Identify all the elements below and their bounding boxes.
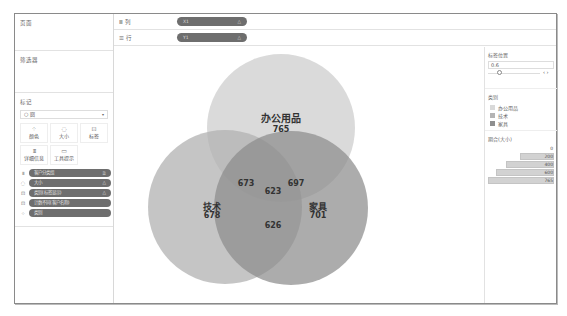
chevron-down-icon: ▾ [102, 111, 104, 118]
color-legend: 类别 办公用品 技术 家具 [485, 89, 557, 131]
size-row: 400 [488, 161, 554, 168]
label-position-slider[interactable] [488, 73, 540, 74]
size-row: 765 [488, 177, 554, 184]
size-value: 200 [544, 154, 553, 159]
columns-text: 列 [125, 19, 131, 25]
venn-svg [116, 47, 483, 303]
set-icon: ≧ [102, 169, 106, 177]
swatch [490, 121, 495, 126]
size-legend-title: 期合(大小) [488, 135, 512, 142]
size-legend: 期合(大小) 0 200 400 600 765 [485, 131, 557, 201]
columns-label: Ⅲ 列 [119, 18, 131, 26]
pill-label: X1 [183, 19, 189, 24]
step-arrows[interactable]: ‹ › [543, 69, 549, 75]
set-label-office: 办公用品 [241, 113, 321, 125]
tooltip-button[interactable]: ▭ 工具提示 [50, 145, 78, 165]
filters-shelf[interactable]: 筛选器 [15, 51, 113, 93]
overlap-all: 623 [258, 187, 288, 196]
pill-label: Y1 [183, 35, 189, 40]
venn-chart[interactable]: 办公用品 765 技术 678 家具 701 673 697 626 623 [116, 47, 483, 303]
label-icon: ⊡ [81, 124, 107, 133]
set-value-furniture: 701 [298, 211, 338, 220]
left-panel: 页面 筛选器 标记 ○ 圆 ▾ ⁘ 颜色 ◌ 大小 ⊡ 标签 ⩩ [15, 14, 114, 303]
delta-icon: △ [238, 17, 241, 26]
mark-pill-row[interactable]: ◌ 大小△ [19, 179, 111, 187]
right-panel: 标签位置 0.6 ‹ › 类别 办公用品 技术 家具 期合(大小) 0 200 … [484, 47, 556, 303]
color-legend-title: 类别 [488, 93, 498, 100]
mark-pill[interactable]: 大小△ [29, 179, 111, 187]
rows-text: 行 [126, 35, 132, 41]
size-row: 0 [488, 145, 554, 152]
mark-pill-row[interactable]: ⊡ 计数不同(客户名称) [19, 199, 111, 207]
size-icon: ◌ [51, 124, 77, 133]
marks-card: 标记 ○ 圆 ▾ ⁘ 颜色 ◌ 大小 ⊡ 标签 ⩩ 详细信息 ▭ [15, 93, 113, 227]
tooltip-label: 工具提示 [51, 155, 77, 162]
pages-title: 页面 [20, 19, 32, 27]
size-value: 400 [544, 162, 553, 167]
delta-icon: △ [238, 33, 241, 42]
label-position-card: 标签位置 0.6 ‹ › [485, 47, 557, 89]
tableau-worksheet: 页面 筛选器 标记 ○ 圆 ▾ ⁘ 颜色 ◌ 大小 ⊡ 标签 ⩩ [14, 13, 557, 304]
legend-item[interactable]: 技术 [490, 113, 508, 119]
pill-label: 计数不同(客户名称) [34, 200, 70, 205]
swatch [490, 105, 495, 110]
legend-item[interactable]: 家具 [490, 121, 508, 127]
color-button[interactable]: ⁘ 颜色 [20, 123, 48, 143]
legend-label: 技术 [498, 113, 508, 119]
swatch [490, 113, 495, 118]
size-icon: ◌ [19, 179, 27, 187]
detail-icon: ⩩ [21, 146, 47, 155]
size-label: 大小 [51, 133, 77, 140]
legend-item[interactable]: 办公用品 [490, 105, 518, 111]
size-row: 200 [488, 153, 554, 160]
rows-pill[interactable]: Y1△ [177, 33, 247, 42]
color-label: 颜色 [21, 133, 47, 140]
columns-icon: Ⅲ [119, 19, 123, 25]
legend-label: 家具 [498, 121, 508, 127]
columns-pill[interactable]: X1△ [177, 17, 247, 26]
size-button[interactable]: ◌ 大小 [50, 123, 78, 143]
overlap-office-tech: 673 [231, 179, 261, 188]
filters-title: 筛选器 [20, 56, 38, 64]
mark-type-dropdown[interactable]: ○ 圆 ▾ [20, 110, 108, 119]
mark-pill[interactable]: 类别(标签显示)△ [29, 189, 111, 197]
tooltip-icon: ▭ [51, 146, 77, 155]
mark-pill-row[interactable]: ⩩ 客户分类组≧ [19, 169, 111, 177]
pill-label: 大小 [34, 180, 42, 185]
set-value-office: 765 [241, 125, 321, 134]
pill-label: 客户分类组 [34, 170, 54, 175]
delta-icon: △ [103, 189, 106, 197]
label-position-title: 标签位置 [488, 51, 508, 58]
rows-shelf[interactable]: ☰ 行 Y1△ [114, 30, 556, 46]
set-value-tech: 678 [192, 211, 232, 220]
delta-icon: △ [103, 179, 106, 187]
pages-shelf[interactable]: 页面 [15, 14, 113, 51]
size-value: 765 [544, 178, 553, 183]
size-row: 600 [488, 169, 554, 176]
detail-icon: ⩩ [19, 169, 27, 177]
label-label: 标签 [81, 133, 107, 140]
marks-title: 标记 [20, 98, 32, 106]
rows-icon: ☰ [119, 35, 124, 41]
color-dots-icon: ⁘ [21, 124, 47, 133]
legend-label: 办公用品 [498, 105, 518, 111]
size-value: 0 [550, 146, 553, 151]
label-position-input[interactable]: 0.6 [488, 61, 554, 69]
mark-pill[interactable]: 计数不同(客户名称) [29, 199, 111, 207]
circle-furniture[interactable] [214, 131, 368, 285]
mark-type-value: 圆 [30, 111, 35, 117]
columns-shelf[interactable]: Ⅲ 列 X1△ [114, 14, 556, 30]
label-button[interactable]: ⊡ 标签 [80, 123, 108, 143]
size-value: 600 [544, 170, 553, 175]
label-icon: ⊡ [19, 199, 27, 207]
mark-pill[interactable]: 类别 [29, 209, 111, 217]
mark-pill[interactable]: 客户分类组≧ [29, 169, 111, 177]
overlap-tech-furniture: 626 [258, 221, 288, 230]
mark-pill-row[interactable]: ⁘ 类别 [19, 209, 111, 217]
mark-pill-row[interactable]: ⊡ 类别(标签显示)△ [19, 189, 111, 197]
color-dots-icon: ⁘ [19, 209, 27, 217]
detail-button[interactable]: ⩩ 详细信息 [20, 145, 48, 165]
detail-label: 详细信息 [21, 155, 47, 162]
pill-label: 类别 [34, 210, 42, 215]
slider-knob[interactable] [497, 70, 502, 75]
